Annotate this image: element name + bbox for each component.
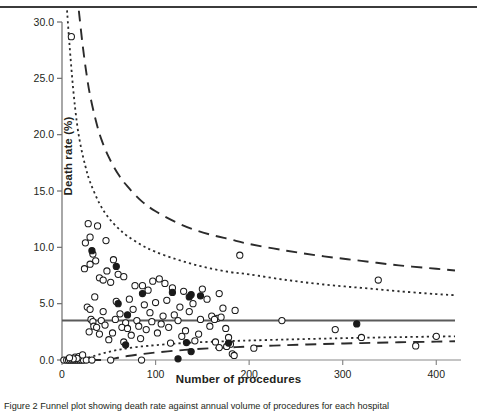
- data-point-open: [177, 304, 183, 310]
- data-point-open: [160, 313, 166, 319]
- data-point-open: [164, 297, 170, 303]
- data-point-open: [162, 280, 168, 286]
- data-point-filled: [175, 356, 181, 362]
- data-point-open: [237, 252, 243, 258]
- data-point-open: [154, 330, 160, 336]
- data-point-filled: [124, 312, 130, 318]
- data-point-open: [223, 325, 229, 331]
- y-axis-tick-label: 25.0: [34, 72, 55, 84]
- figure-caption: Figure 2 Funnel plot showing death rate …: [4, 401, 474, 412]
- data-point-open: [138, 357, 144, 363]
- data-point-filled: [197, 293, 203, 299]
- data-point-open: [93, 258, 99, 264]
- data-point-open: [92, 294, 98, 300]
- data-point-open: [138, 335, 144, 341]
- data-point-open: [100, 277, 106, 283]
- data-point-filled: [89, 248, 95, 254]
- data-point-open: [182, 328, 188, 334]
- data-point-open: [128, 332, 134, 338]
- data-point-open: [87, 306, 93, 312]
- data-point-open: [232, 307, 238, 313]
- data-point-open: [413, 343, 419, 349]
- data-point-open: [186, 308, 192, 314]
- data-point-filled: [188, 348, 194, 354]
- data-point-open: [156, 276, 162, 282]
- data-point-open: [81, 266, 87, 272]
- data-point-open: [220, 305, 226, 311]
- data-point-open: [190, 301, 196, 307]
- data-point-open: [141, 302, 147, 308]
- data-point-filled: [183, 339, 189, 345]
- data-point-open: [94, 324, 100, 330]
- data-point-open: [175, 317, 181, 323]
- data-point-open: [79, 352, 85, 358]
- data-point-open: [166, 324, 172, 330]
- data-point-open: [89, 357, 95, 363]
- data-point-open: [100, 308, 106, 314]
- y-axis-tick-label: 30.0: [34, 16, 55, 28]
- control-limit-curve: [79, 11, 455, 271]
- data-point-open: [136, 323, 142, 329]
- data-point-open: [86, 329, 92, 335]
- data-point-open: [171, 312, 177, 318]
- data-point-open: [102, 322, 108, 328]
- data-point-open: [152, 299, 158, 305]
- data-point-filled: [113, 263, 119, 269]
- y-axis-tick-label: 5.0: [39, 297, 54, 309]
- y-axis-title: Death rate (%): [62, 86, 74, 226]
- data-point-open: [158, 321, 164, 327]
- control-limit-curve: [67, 8, 455, 295]
- data-point-open: [149, 319, 155, 325]
- data-point-open: [126, 296, 132, 302]
- data-point-filled: [169, 289, 175, 295]
- data-point-open: [87, 234, 93, 240]
- data-point-open: [147, 310, 153, 316]
- data-point-filled: [139, 290, 145, 296]
- data-point-open: [216, 345, 222, 351]
- data-point-open: [66, 355, 72, 361]
- data-point-filled: [115, 301, 121, 307]
- data-point-open: [117, 311, 123, 317]
- data-point-open: [106, 337, 112, 343]
- data-point-open: [104, 268, 110, 274]
- data-point-open: [192, 338, 198, 344]
- data-point-open: [212, 339, 218, 345]
- data-point-open: [207, 323, 213, 329]
- data-point-open: [231, 352, 237, 358]
- data-point-open: [218, 314, 224, 320]
- data-point-open: [179, 333, 185, 339]
- data-point-open: [358, 334, 364, 340]
- figure-root: 0.05.010.015.020.025.030.00100200300400 …: [0, 0, 477, 412]
- x-axis-title: Number of procedures: [0, 373, 477, 385]
- control-limit-curve: [90, 341, 455, 360]
- data-point-open: [108, 357, 114, 363]
- data-point-open: [196, 331, 202, 337]
- data-point-open: [204, 296, 210, 302]
- data-point-open: [433, 333, 439, 339]
- data-point-open: [375, 277, 381, 283]
- data-point-open: [251, 345, 257, 351]
- data-point-open: [139, 283, 145, 289]
- data-point-open: [181, 288, 187, 294]
- data-point-open: [150, 278, 156, 284]
- data-point-filled: [123, 342, 129, 348]
- data-point-filled: [354, 321, 360, 327]
- data-point-open: [124, 325, 130, 331]
- y-axis-tick-label: 15.0: [34, 185, 55, 197]
- data-point-open: [132, 283, 138, 289]
- data-point-open: [216, 290, 222, 296]
- data-point-open: [332, 326, 338, 332]
- data-point-open: [143, 326, 149, 332]
- data-point-open: [197, 316, 203, 322]
- data-point-filled: [225, 340, 231, 346]
- data-point-open: [68, 34, 74, 40]
- data-point-open: [199, 286, 205, 292]
- data-point-open: [167, 340, 173, 346]
- data-point-open: [96, 331, 102, 337]
- data-point-open: [85, 221, 91, 227]
- data-point-open: [130, 306, 136, 312]
- data-point-open: [121, 274, 127, 280]
- data-point-open: [145, 287, 151, 293]
- data-point-open: [94, 223, 100, 229]
- y-axis-tick-label: 20.0: [34, 128, 55, 140]
